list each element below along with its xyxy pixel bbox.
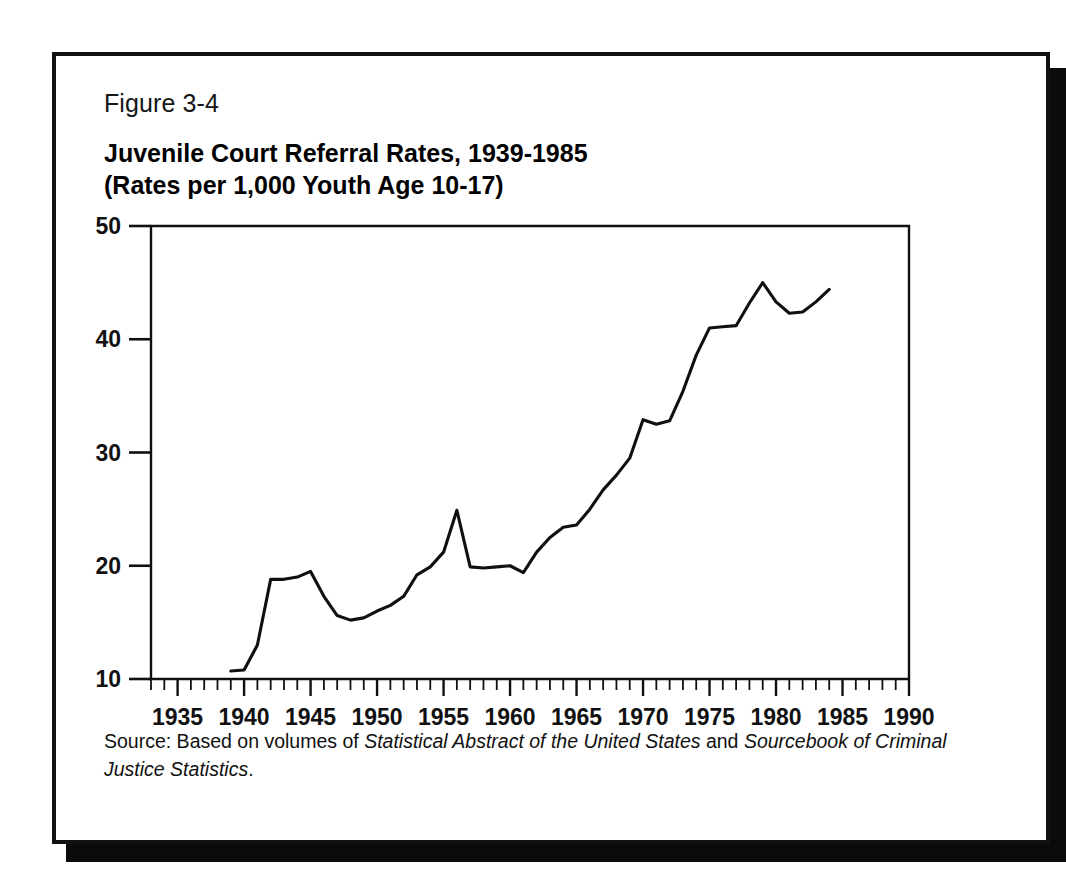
source-note: Source: Based on volumes of Statistical … [104,728,994,783]
y-axis-tick-label: 40 [95,326,121,352]
x-axis-tick-label: 1985 [817,704,868,730]
source-title-1: Statistical Abstract of the United State… [364,730,700,752]
y-axis-tick-label: 10 [95,666,121,692]
figure-inner: Figure 3-4 Juvenile Court Referral Rates… [56,56,1046,840]
x-axis-tick-label: 1945 [285,704,336,730]
x-axis-tick-label: 1955 [418,704,469,730]
x-axis-tick-label: 1980 [750,704,801,730]
chart-data-line [231,283,829,671]
x-axis-tick-label: 1970 [617,704,668,730]
y-axis-tick-label: 20 [95,553,121,579]
figure-frame: Figure 3-4 Juvenile Court Referral Rates… [52,52,1050,844]
source-prefix: Source: Based on volumes of [104,730,364,752]
chart-tick-marks [129,226,909,696]
x-axis-tick-label: 1950 [351,704,402,730]
chart-x-axis-labels: 1935194019451950195519601965197019751980… [152,704,935,730]
x-axis-tick-label: 1940 [219,704,270,730]
referral-rate-line [231,283,829,671]
x-axis-tick-label: 1965 [551,704,602,730]
y-axis-tick-label: 50 [95,213,121,239]
chart-y-axis-labels: 1020304050 [95,213,121,692]
x-axis-tick-label: 1935 [152,704,203,730]
y-axis-tick-label: 30 [95,440,121,466]
source-suffix: . [248,758,253,780]
source-conjunction: and [701,730,744,752]
x-axis-tick-label: 1975 [684,704,735,730]
x-axis-tick-label: 1960 [484,704,535,730]
x-axis-tick-label: 1990 [883,704,934,730]
